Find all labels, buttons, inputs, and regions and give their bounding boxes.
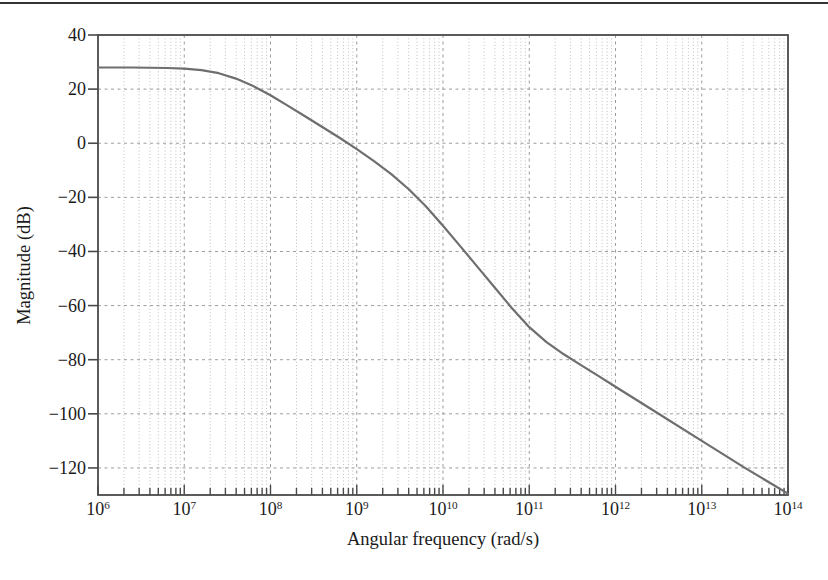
x-axis-title: Angular frequency (rad/s) xyxy=(98,529,788,550)
x-tick-label-10e7: 107 xyxy=(152,498,216,522)
x-tick-label-10e6: 106 xyxy=(66,498,130,522)
y-tick-label--120: −120 xyxy=(30,457,86,479)
y-axis-title-wrap: Magnitude (dB) xyxy=(10,35,38,495)
y-axis-title: Magnitude (dB) xyxy=(14,206,35,325)
plot-svg xyxy=(0,0,828,580)
y-tick-label-20: 20 xyxy=(30,78,86,100)
page: 40200−20−40−60−80−100−120 10610710810910… xyxy=(0,0,828,580)
x-tick-label-10e13: 1013 xyxy=(670,498,734,522)
magnitude-curve xyxy=(98,68,788,494)
y-tick-label-0: 0 xyxy=(30,132,86,154)
y-tick-label--100: −100 xyxy=(30,403,86,425)
bode-magnitude-chart: 40200−20−40−60−80−100−120 10610710810910… xyxy=(0,0,828,580)
y-tick-label--40: −40 xyxy=(30,240,86,262)
y-tick-label--80: −80 xyxy=(30,349,86,371)
x-tick-label-10e14: 1014 xyxy=(756,498,820,522)
y-tick-label--60: −60 xyxy=(30,295,86,317)
x-tick-label-10e9: 109 xyxy=(325,498,389,522)
y-tick-label--20: −20 xyxy=(30,186,86,208)
x-tick-label-10e8: 108 xyxy=(239,498,303,522)
y-tick-label-40: 40 xyxy=(30,24,86,46)
x-tick-label-10e10: 1010 xyxy=(411,498,475,522)
x-tick-label-10e11: 1011 xyxy=(497,498,561,522)
x-tick-label-10e12: 1012 xyxy=(584,498,648,522)
